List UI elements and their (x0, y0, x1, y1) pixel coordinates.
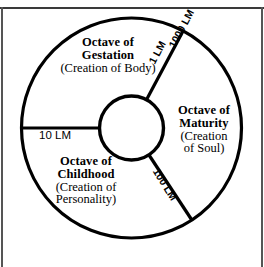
sector-label-childhood: Octave of Childhood (Creation of Persona… (24, 155, 148, 206)
sector-label-maturity: Octave of Maturity (Creation of Soul) (162, 104, 246, 155)
maturity-subtitle-line2: of Soul) (162, 142, 246, 155)
tick-label-10lm: 10 LM (39, 129, 71, 141)
gestation-subtitle: (Creation of Body) (48, 62, 168, 75)
maturity-title-line1: Octave of (162, 104, 246, 117)
maturity-title-line2: Maturity (162, 117, 246, 130)
inner-hub-circle (100, 96, 164, 160)
childhood-title-line1: Octave of (24, 155, 148, 168)
childhood-subtitle-line2: Personality) (24, 193, 148, 206)
gestation-title-line1: Octave of (48, 36, 168, 49)
childhood-title-line2: Childhood (24, 168, 148, 181)
